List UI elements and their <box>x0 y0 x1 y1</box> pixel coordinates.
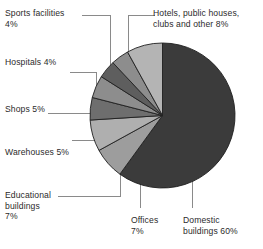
leader-line-hospitals <box>70 72 96 99</box>
slice-label-offices: Offices 7% <box>131 215 175 236</box>
pie-slices: Domestic buildings 60%Offices 7%Educatio… <box>90 43 235 188</box>
slice-label-domestic-buildings: Domestic buildings 60% <box>183 215 261 236</box>
slice-label-shops: Shops 5% <box>5 104 75 115</box>
slice-label-warehouses: Warehouses 5% <box>5 147 91 158</box>
slice-label-hospitals: Hospitals 4% <box>5 57 91 68</box>
slice-label-hotels: Hotels, public houses, clubs and other 8… <box>153 8 261 29</box>
pie-chart-figure: Domestic buildings 60%Offices 7%Educatio… <box>0 0 263 249</box>
slice-label-sports-facilities: Sports facilities 4% <box>5 8 85 29</box>
slice-label-educational-buildings: Educational buildings 7% <box>5 190 67 222</box>
